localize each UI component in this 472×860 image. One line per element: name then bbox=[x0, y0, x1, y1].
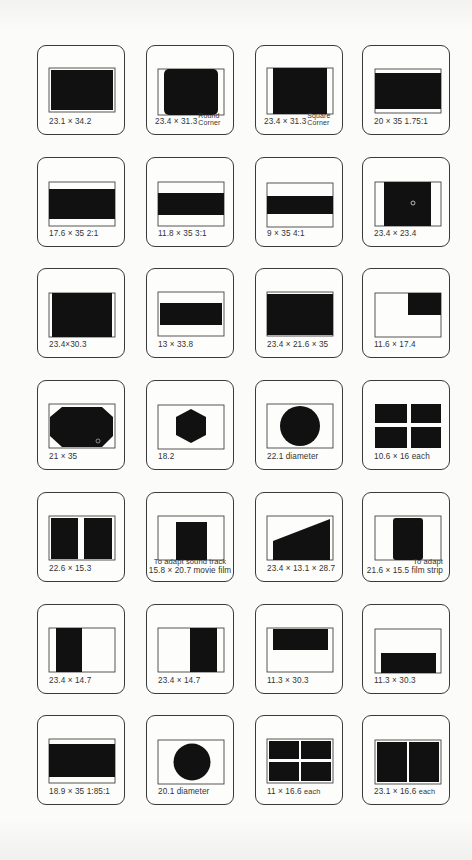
slide-card-circle-large: 22.1 diameter bbox=[255, 380, 343, 470]
slide-label: 23.4 × 31.3SquareCorner bbox=[264, 112, 331, 126]
slide-label: 13 × 33.8 bbox=[158, 341, 193, 349]
slide-label: 23.1 × 16.6 each bbox=[374, 788, 435, 796]
slide-label: 11.6 × 17.4 bbox=[374, 341, 416, 349]
slide-card-left-half: 23.4 × 14.7 bbox=[37, 604, 125, 694]
slide-label: 22.1 diameter bbox=[267, 453, 318, 461]
slide-card-band-13: 13 × 33.8 bbox=[146, 268, 234, 358]
slide-card-near-full: 23.4 × 21.6 × 35 bbox=[255, 268, 343, 358]
slide-label: 11.8 × 35 3:1 bbox=[158, 230, 207, 238]
slide-label: 10.6 × 16 each bbox=[374, 453, 430, 461]
slide-card-full-rect: 23.1 × 34.2 bbox=[37, 45, 125, 135]
slide-note: SquareCorner bbox=[307, 112, 330, 126]
slide-suffix: each bbox=[304, 787, 320, 796]
slide-label: 9 × 35 4:1 bbox=[267, 230, 305, 238]
slide-label: 18.2 bbox=[158, 453, 174, 461]
slide-card-square: 23.4 × 23.4 bbox=[362, 157, 450, 247]
slide-label: 23.4×30.3 bbox=[49, 341, 87, 349]
slide-card-dual-split: 23.1 × 16.6 each bbox=[362, 715, 450, 805]
slide-label: 23.4 × 31.3RoundCorner bbox=[155, 112, 220, 126]
slide-label: 21 × 35 bbox=[49, 453, 77, 461]
slide-card-dual-vertical: 22.6 × 15.3 bbox=[37, 492, 125, 582]
slide-note: To adapt bbox=[367, 558, 443, 566]
slide-card-rect-30-3: 23.4×30.3 bbox=[37, 268, 125, 358]
slide-note: RoundCorner bbox=[198, 112, 220, 126]
slide-card-band-3-1: 11.8 × 35 3:1 bbox=[146, 157, 234, 247]
slide-card-wide-band: 20 × 35 1.75:1 bbox=[362, 45, 450, 135]
slide-dimension: 11 × 16.6 bbox=[267, 787, 302, 796]
slide-dimension: 15.8 × 20.7 movie film bbox=[149, 566, 232, 575]
slide-label: 11 × 16.6 each bbox=[267, 788, 320, 796]
slide-card-top-band: 11.3 × 30.3 bbox=[255, 604, 343, 694]
slide-card-right-half: 23.4 × 14.7 bbox=[146, 604, 234, 694]
slide-card-octagon: 21 × 35 bbox=[37, 380, 125, 470]
slide-card-band-2-1: 17.6 × 35 2:1 bbox=[37, 157, 125, 247]
slide-card-bottom-band: 11.3 × 30.3 bbox=[362, 604, 450, 694]
slide-card-hexagon: 18.2 bbox=[146, 380, 234, 470]
slide-note: To adapt sound track bbox=[147, 558, 233, 566]
slide-label: 20 × 35 1.75:1 bbox=[374, 118, 428, 126]
slide-label: 17.6 × 35 2:1 bbox=[49, 230, 98, 238]
slide-card-band-4-1: 9 × 35 4:1 bbox=[255, 157, 343, 247]
slide-label: 23.4 × 13.1 × 28.7 bbox=[267, 565, 335, 573]
slide-card-square-corner: 23.4 × 31.3SquareCorner bbox=[255, 45, 343, 135]
slide-card-top-right-quarter: 11.6 × 17.4 bbox=[362, 268, 450, 358]
slide-label: To adapt sound track 15.8 × 20.7 movie f… bbox=[147, 558, 233, 575]
slide-label: 22.6 × 15.3 bbox=[49, 565, 91, 573]
slide-label: 11.3 × 30.3 bbox=[267, 677, 309, 685]
slide-card-band-1-85: 18.9 × 35 1:85:1 bbox=[37, 715, 125, 805]
slide-card-quad-grid: 11 × 16.6 each bbox=[255, 715, 343, 805]
slide-dimension: 23.1 × 16.6 bbox=[374, 787, 416, 796]
slide-label: 23.4 × 21.6 × 35 bbox=[267, 341, 328, 349]
slide-label: 11.3 × 30.3 bbox=[374, 677, 416, 685]
slide-dimension: 23.4 × 31.3 bbox=[264, 117, 306, 126]
slide-label: 23.4 × 14.7 bbox=[49, 677, 91, 685]
slide-label: 20.1 diameter bbox=[158, 788, 209, 796]
slide-label: 23.4 × 14.7 bbox=[158, 677, 200, 685]
slide-card-quad-cross: 10.6 × 16 each bbox=[362, 380, 450, 470]
slide-card-rounded-rect: 23.4 × 31.3RoundCorner bbox=[146, 45, 234, 135]
slide-dimension: 23.4 × 31.3 bbox=[155, 117, 197, 126]
slide-label: To adapt 21.6 × 15.5 film strip bbox=[367, 558, 443, 575]
slide-label: 18.9 × 35 1:85:1 bbox=[49, 788, 110, 796]
slide-dimension: 21.6 × 15.5 film strip bbox=[367, 566, 443, 575]
slide-label: 23.1 × 34.2 bbox=[49, 118, 91, 126]
slide-suffix: each bbox=[419, 787, 435, 796]
slide-card-center-tall: To adapt sound track 15.8 × 20.7 movie f… bbox=[146, 492, 234, 582]
slide-card-circle-small: 20.1 diameter bbox=[146, 715, 234, 805]
slide-card-trapezoid: 23.4 × 13.1 × 28.7 bbox=[255, 492, 343, 582]
slide-label: 23.4 × 23.4 bbox=[374, 230, 416, 238]
slide-card-rounded-tall: To adapt 21.6 × 15.5 film strip bbox=[362, 492, 450, 582]
